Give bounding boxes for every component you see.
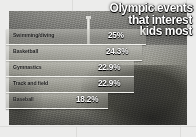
- bar-row: Baseball 18.2%: [6, 93, 146, 109]
- bar-chart: Swimming/diving 25% Basketball 24.3% Gym…: [6, 29, 146, 109]
- infographic-root: Olympic events that interest kids most S…: [0, 0, 196, 137]
- bar-value-label: 24.3%: [106, 47, 128, 56]
- bar-row: Basketball 24.3%: [6, 45, 146, 61]
- bar-value-label: 18.2%: [76, 95, 98, 104]
- bar-value-label: 22.9%: [98, 63, 120, 72]
- bar-row: Swimming/diving 25%: [6, 29, 146, 45]
- bar-value-label: 22.9%: [98, 79, 120, 88]
- paper-seam: [76, 126, 77, 137]
- bar-category-label: Track and field: [13, 80, 48, 86]
- bar-row: Track and field 22.9%: [6, 77, 146, 93]
- bar-row: Gymnastics 22.9%: [6, 61, 146, 77]
- bar-category-label: Baseball: [13, 96, 34, 102]
- bar-category-label: Basketball: [13, 48, 38, 54]
- bar-category-label: Gymnastics: [13, 64, 42, 70]
- bar-value-label: 25%: [108, 31, 124, 40]
- bar-category-label: Swimming/diving: [13, 32, 54, 38]
- paper-seam: [0, 126, 196, 127]
